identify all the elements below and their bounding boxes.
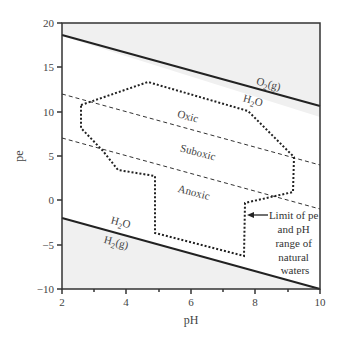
limit-annotation: Limit of pe and pH range of natural wate… xyxy=(269,209,321,276)
x-tick-4: 4 xyxy=(123,296,129,308)
y-tick-neg5: −5 xyxy=(42,239,54,251)
y-tick-neg10: −10 xyxy=(37,283,55,295)
pe-ph-diagram: 20 15 10 5 0 −5 −10 2 4 6 8 10 pH pe O2(… xyxy=(0,0,339,340)
suboxic-label: Suboxic xyxy=(179,142,217,163)
h2o-lower-label: H2O xyxy=(109,214,132,234)
y-tick-0: 0 xyxy=(49,194,55,206)
x-tick-6: 6 xyxy=(188,296,194,308)
x-axis-title: pH xyxy=(184,313,199,327)
y-tick-10: 10 xyxy=(43,106,55,118)
y-tick-20: 20 xyxy=(43,17,55,29)
oxic-label: Oxic xyxy=(176,107,200,124)
x-tick-10: 10 xyxy=(315,296,327,308)
x-tick-2: 2 xyxy=(59,296,65,308)
anoxic-label: Anoxic xyxy=(177,182,211,202)
x-tick-8: 8 xyxy=(252,296,258,308)
y-axis-title: pe xyxy=(12,150,26,161)
y-tick-15: 15 xyxy=(43,61,55,73)
limit-arrow-head xyxy=(247,212,254,218)
y-tick-5: 5 xyxy=(49,150,55,162)
